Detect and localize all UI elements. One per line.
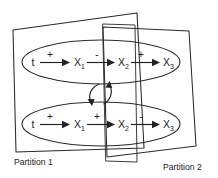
bottom-node-2-label: X [118, 118, 125, 130]
top-edge-0-arrowhead [62, 59, 70, 66]
bottom-node-0-label: t [32, 118, 35, 130]
top-edge-1-arrowhead [107, 59, 115, 66]
top-edge-2-sign: + [138, 49, 144, 60]
bottom-edge-2-arrowhead [152, 121, 160, 128]
partition-1-caption: Partition 1 [14, 157, 53, 167]
top-node-1-label: X [74, 56, 81, 68]
top-node-0-label: t [32, 56, 35, 68]
top-node-2-label: X [118, 56, 125, 68]
top-node-3-subscript: 3 [170, 63, 174, 70]
bottom-edge-1-sign: + [94, 111, 100, 122]
bottom-edge-2-sign: - [139, 111, 142, 122]
top-node-3-label: X [163, 56, 170, 68]
diagram-canvas: t + X 1 - X 2 + X 3 t + X 1 + [0, 0, 218, 178]
bottom-edge-0-sign: + [47, 111, 53, 122]
top-edge-1-sign: - [95, 49, 98, 60]
bottom-node-1-label: X [74, 118, 81, 130]
bottom-edge-0-arrowhead [62, 121, 70, 128]
bottom-node-3-subscript: 3 [170, 125, 174, 132]
bottom-node-1-subscript: 1 [81, 125, 85, 132]
top-edge-0-sign: + [47, 49, 53, 60]
center-slab-plane [103, 24, 137, 162]
top-node-1-subscript: 1 [81, 63, 85, 70]
partition-2-plane [103, 27, 196, 157]
top-node-2-subscript: 2 [125, 63, 129, 70]
partition-diagram-figure: t + X 1 - X 2 + X 3 t + X 1 + [0, 0, 218, 178]
partition-2-caption: Partition 2 [163, 162, 202, 172]
bottom-node-3-label: X [163, 118, 170, 130]
top-edge-2-arrowhead [152, 59, 160, 66]
bottom-node-2-subscript: 2 [125, 125, 129, 132]
bottom-edge-1-arrowhead [107, 121, 115, 128]
